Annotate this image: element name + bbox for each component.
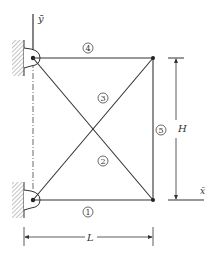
wall-hatch-bottom xyxy=(12,182,24,218)
length-dimension: L xyxy=(24,227,153,246)
member-4-label: 4 xyxy=(85,44,90,53)
height-label: H xyxy=(177,123,187,134)
joint-top-right xyxy=(151,56,155,60)
x-axis-label: x̄ xyxy=(200,186,205,196)
member-2-label: 2 xyxy=(100,157,105,166)
truss-members: 12345 xyxy=(33,43,166,217)
length-label: L xyxy=(86,232,94,243)
height-dimension: H xyxy=(168,58,187,199)
wall-hatch-top xyxy=(12,40,24,76)
joint-bottom-right xyxy=(151,198,155,202)
member-5-label: 5 xyxy=(158,126,163,135)
truss-diagram: ȳ 12345 H x̄ L xyxy=(0,0,222,256)
member-1-label: 1 xyxy=(85,208,90,217)
y-axis-label: ȳ xyxy=(37,13,44,24)
member-3-label: 3 xyxy=(100,94,105,103)
